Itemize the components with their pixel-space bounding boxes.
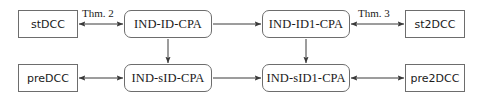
- node-stdcc[interactable]: stDCC: [18, 10, 78, 38]
- node-label: IND-ID-CPA: [134, 17, 202, 32]
- node-st2dcc[interactable]: st2DCC: [405, 10, 465, 38]
- node-ind-id1-cpa[interactable]: IND-ID1-CPA: [262, 10, 350, 38]
- node-label: st2DCC: [415, 18, 456, 31]
- node-label: IND-ID1-CPA: [269, 17, 343, 32]
- node-label: pre2DCC: [411, 72, 460, 85]
- edge-label-thm-3: Thm. 3: [358, 7, 390, 19]
- node-pre2dcc[interactable]: pre2DCC: [405, 64, 465, 92]
- node-ind-id-cpa[interactable]: IND-ID-CPA: [124, 10, 212, 38]
- diagram-canvas: stDCC IND-ID-CPA IND-ID1-CPA st2DCC preD…: [0, 0, 482, 102]
- node-label: IND-sID-CPA: [132, 71, 205, 86]
- node-label: preDCC: [27, 72, 69, 85]
- node-label: IND-sID1-CPA: [266, 71, 345, 86]
- node-ind-sid-cpa[interactable]: IND-sID-CPA: [124, 64, 212, 92]
- edge-label-thm-2: Thm. 2: [82, 7, 114, 19]
- node-predcc[interactable]: preDCC: [18, 64, 78, 92]
- node-label: stDCC: [31, 18, 65, 31]
- node-ind-sid1-cpa[interactable]: IND-sID1-CPA: [262, 64, 350, 92]
